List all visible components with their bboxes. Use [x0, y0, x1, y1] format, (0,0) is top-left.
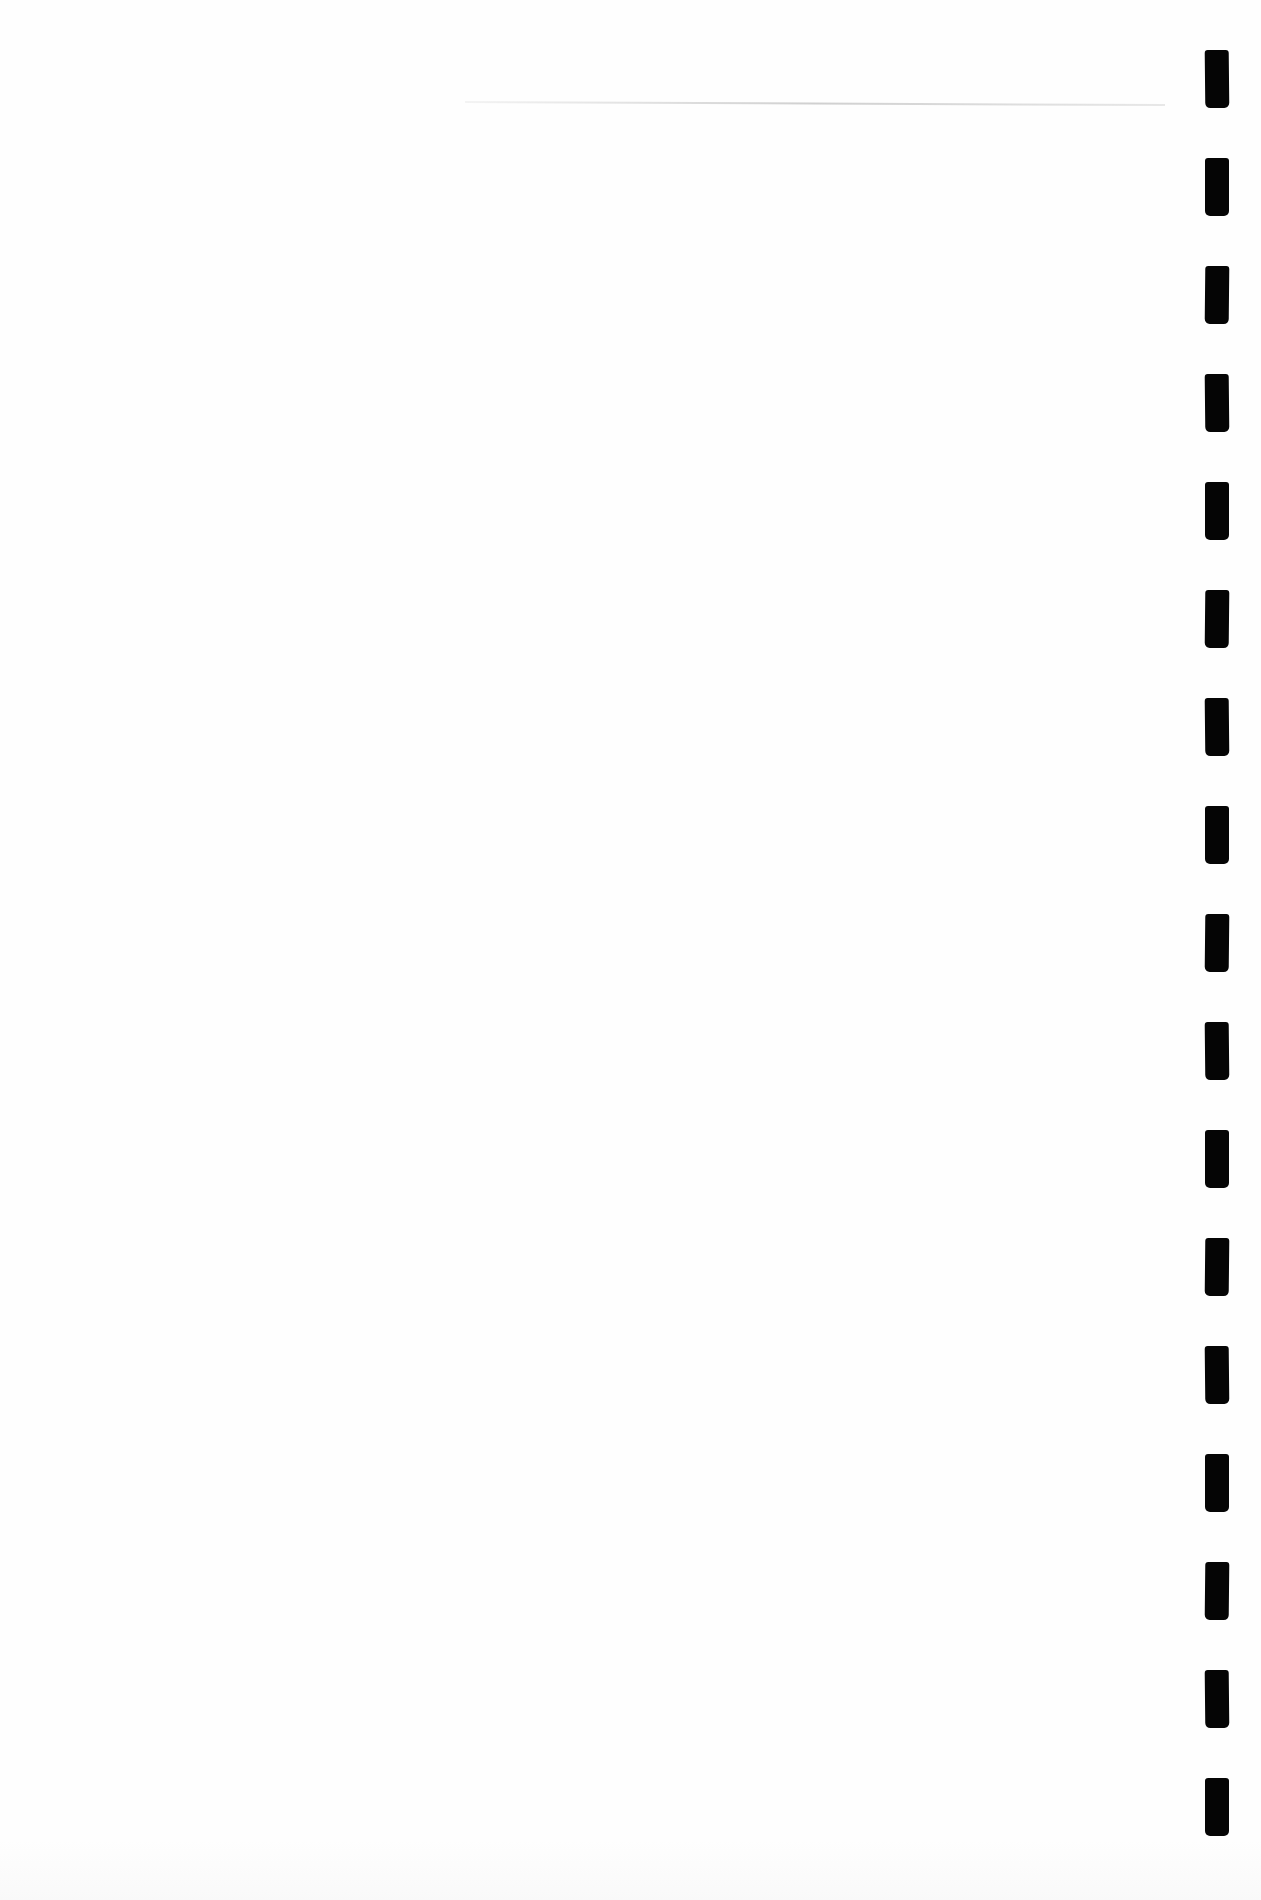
scanned-page [0, 0, 1261, 1900]
binding-hole-mark [1205, 1346, 1230, 1404]
binding-hole-mark [1205, 50, 1230, 108]
binding-hole-mark [1205, 1778, 1229, 1836]
binding-hole-mark [1205, 590, 1230, 648]
binding-hole-mark [1205, 1130, 1229, 1188]
binding-hole-mark [1205, 158, 1229, 216]
binding-marks-strip [1203, 0, 1233, 1900]
binding-hole-mark [1205, 266, 1230, 324]
binding-hole-mark [1205, 1022, 1230, 1080]
scan-edge-noise [0, 1840, 1261, 1900]
binding-hole-mark [1205, 914, 1230, 972]
binding-hole-mark [1205, 482, 1229, 540]
binding-hole-mark [1205, 1238, 1230, 1296]
binding-hole-mark [1205, 1562, 1230, 1620]
top-horizontal-rule [465, 101, 1165, 106]
binding-hole-mark [1205, 698, 1230, 756]
binding-hole-mark [1205, 1454, 1229, 1512]
binding-hole-mark [1205, 374, 1230, 432]
binding-hole-mark [1205, 1670, 1230, 1728]
binding-hole-mark [1205, 806, 1229, 864]
